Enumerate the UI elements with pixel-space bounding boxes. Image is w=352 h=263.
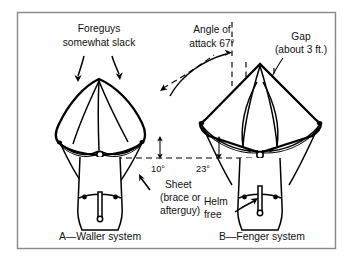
waller-clew-port	[57, 141, 62, 145]
fenger-angle-label: 23°	[196, 164, 210, 174]
fenger-hull	[238, 158, 283, 230]
waller-rudder-head	[97, 216, 102, 221]
foreguys-label-line1: Foreguys	[78, 23, 120, 34]
waller-tiller	[98, 192, 102, 218]
fenger-deck-fitting-port	[242, 195, 247, 200]
waller-angle-label: 10°	[151, 164, 165, 174]
waller-deck-fitting-starboard	[113, 195, 118, 200]
fenger-tiller	[258, 186, 262, 212]
sheet-label-line2: (brace or	[160, 192, 201, 203]
fenger-tack-fitting	[257, 152, 263, 158]
gap-label-line2: (about 3 ft.)	[275, 44, 327, 55]
angle-of-attack-label-line2: attack 67°	[189, 38, 234, 49]
gap-label-line1: Gap	[291, 31, 311, 42]
caption-waller: A—Waller system	[59, 231, 141, 242]
sheet-label-line1: Sheet	[165, 179, 192, 190]
waller-deck-fitting-port	[82, 195, 87, 200]
waller-tack-fitting	[97, 151, 103, 157]
foreguys-label-line2: somewhat slack	[63, 37, 136, 48]
helm-label-line2: free	[204, 209, 222, 220]
fenger-rudder-head	[257, 210, 262, 215]
angle-of-attack-label-line1: Angle of	[193, 24, 231, 35]
sheet-label-line3: afterguy)	[160, 205, 200, 216]
waller-hull	[78, 157, 123, 230]
twin-spinnaker-diagram: 10° Sheet (brace or afterguy) A—Waller s…	[0, 0, 352, 263]
caption-fenger: B—Fenger system	[219, 231, 305, 242]
fenger-clew-port	[199, 121, 205, 125]
helm-label-line1: Helm	[204, 196, 228, 207]
figure-container: 10° Sheet (brace or afterguy) A—Waller s…	[0, 0, 352, 263]
fenger-deck-fitting-starboard	[273, 195, 278, 200]
fenger-clew-starboard	[317, 121, 323, 125]
